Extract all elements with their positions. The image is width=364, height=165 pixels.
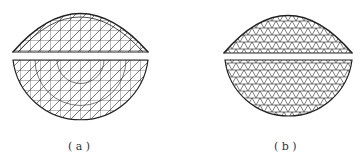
figure-a-elevation xyxy=(12,10,149,53)
caption-b: ( b ) xyxy=(274,140,297,153)
figure-b-plan xyxy=(225,60,353,126)
caption-a: ( a ) xyxy=(68,140,90,153)
figure-b-elevation xyxy=(223,10,353,54)
figure-a-plan xyxy=(13,60,149,130)
diagram-canvas xyxy=(0,0,364,165)
